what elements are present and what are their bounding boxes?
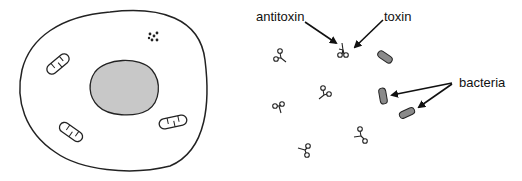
diagram-canvas [0, 0, 522, 181]
bacteria-arrow-2 [419, 84, 452, 107]
bacteria-arrow-1 [392, 83, 452, 95]
antitoxin-toxin-complex [338, 43, 349, 57]
toxin-label: toxin [384, 10, 411, 23]
toxin [319, 86, 331, 99]
bacterium [376, 50, 393, 65]
antitoxin-arrow [305, 22, 336, 43]
mitochondrion [45, 52, 71, 76]
granules [148, 32, 159, 42]
antitoxin-label: antitoxin [256, 10, 304, 23]
toxin-arrow [355, 20, 383, 47]
toxin [274, 49, 286, 62]
toxin [273, 102, 285, 113]
nucleus [90, 60, 158, 114]
bacteria-label: bacteria [459, 76, 505, 89]
bacterium [398, 106, 415, 119]
toxin [298, 144, 310, 158]
mitochondrion [158, 114, 187, 130]
bacterium [378, 88, 388, 105]
toxin [354, 127, 367, 144]
mitochondrion [57, 120, 84, 143]
